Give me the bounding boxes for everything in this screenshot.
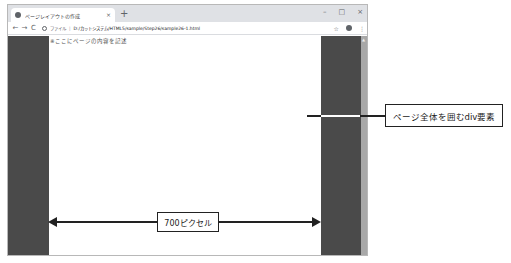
new-tab-button[interactable]: + <box>120 8 128 20</box>
address-separator: | <box>69 26 71 31</box>
callout-leader-line-highlight <box>321 115 360 117</box>
body-background-right <box>321 36 362 255</box>
browser-tab[interactable]: ページレイアウトの作成 × <box>11 8 115 22</box>
url-text: D:/カットシステム/HTML5/sample/Step26/sample26-… <box>74 25 201 31</box>
address-bar[interactable]: ファイル | D:/カットシステム/HTML5/sample/Step26/sa… <box>42 23 328 33</box>
browser-toolbar: ← → C ファイル | D:/カットシステム/HTML5/sample/Ste… <box>8 22 367 35</box>
menu-icon[interactable]: ⋮ <box>359 25 364 32</box>
close-tab-icon[interactable]: × <box>106 12 111 18</box>
title-bar: ページレイアウトの作成 × + – □ × <box>8 5 367 22</box>
tab-title: ページレイアウトの作成 <box>25 12 104 19</box>
minimize-button[interactable]: – <box>323 7 327 17</box>
div-callout-label: ページ全体を囲むdiv要素 <box>385 104 503 127</box>
info-icon[interactable] <box>42 26 47 31</box>
body-background-left <box>8 36 49 255</box>
profile-icon[interactable] <box>346 25 352 31</box>
width-label: 700ピクセル <box>157 212 219 232</box>
globe-icon <box>15 12 21 18</box>
vertical-scrollbar[interactable]: ▲ <box>361 36 367 255</box>
toolbar-actions: ☆ ⋮ <box>334 25 364 32</box>
scroll-up-icon[interactable]: ▲ <box>362 37 365 42</box>
reload-button[interactable]: C <box>29 25 38 32</box>
figure: ページレイアウトの作成 × + – □ × ← → C ファイル | D:/カッ… <box>0 0 511 263</box>
arrow-left-icon <box>48 217 57 227</box>
maximize-button[interactable]: □ <box>339 7 346 17</box>
bookmark-star-icon[interactable]: ☆ <box>334 25 339 32</box>
window-controls: – □ × <box>323 7 363 17</box>
protocol-label: ファイル <box>50 25 66 31</box>
content-placeholder-text: ※ここにページの内容を記述 <box>50 37 127 45</box>
close-window-button[interactable]: × <box>357 7 363 17</box>
arrow-right-icon <box>312 217 321 227</box>
back-button[interactable]: ← <box>11 25 20 32</box>
forward-button[interactable]: → <box>20 25 29 32</box>
